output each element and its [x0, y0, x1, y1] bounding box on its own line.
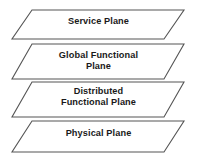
plane-shape-global-functional[interactable]	[12, 44, 184, 79]
plane-shape-distributed-functional[interactable]	[12, 82, 184, 117]
planes-diagram: Service Plane Global Functional Plane Di…	[0, 0, 197, 164]
plane-shape-physical[interactable]	[12, 121, 184, 152]
planes-diagram-shapes	[0, 0, 197, 164]
plane-shape-service[interactable]	[12, 10, 184, 39]
